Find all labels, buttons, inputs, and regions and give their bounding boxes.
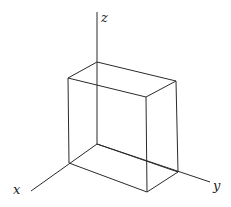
- box-edges: [68, 62, 178, 192]
- box-edge: [146, 81, 176, 97]
- x-axis-label: x: [13, 182, 21, 197]
- box-edge: [68, 62, 97, 78]
- box-edge: [176, 81, 178, 172]
- z-axis-label: z: [100, 10, 108, 25]
- x-axis-line: [31, 144, 97, 191]
- box-edge: [69, 163, 147, 192]
- box-edge: [68, 78, 69, 163]
- box-edge: [146, 97, 147, 192]
- box-edge: [147, 172, 178, 192]
- box-edge: [97, 62, 176, 81]
- box-edge: [97, 144, 178, 172]
- axes: [31, 12, 210, 191]
- y-axis-label: y: [212, 178, 221, 193]
- box-diagram: x y z: [0, 0, 231, 207]
- box-edge: [68, 78, 146, 97]
